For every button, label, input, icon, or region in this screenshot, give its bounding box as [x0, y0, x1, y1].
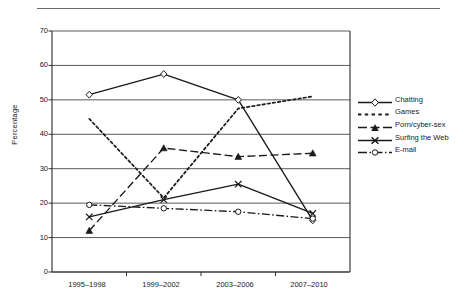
data-series-group	[86, 71, 316, 234]
series-line	[89, 96, 313, 198]
series-e-mail	[87, 202, 316, 221]
legend-key-surfing-the-web	[357, 132, 393, 143]
series-surfing-the-web	[86, 181, 316, 220]
series-line	[89, 148, 313, 231]
legend: Chatting Games Porn/cyber-sex	[357, 93, 465, 156]
legend-key-chatting	[357, 94, 393, 105]
data-point-marker	[161, 71, 167, 78]
data-point-marker	[161, 206, 166, 211]
data-point-marker	[86, 91, 92, 98]
gridlines	[52, 31, 350, 272]
legend-label: Chatting	[393, 95, 423, 104]
legend-item-games[interactable]: Games	[357, 106, 465, 119]
data-point-marker	[236, 209, 241, 214]
legend-item-e-mail[interactable]: E-mail	[357, 143, 465, 156]
axis-frame	[49, 31, 351, 276]
legend-label: Porn/cyber-sex	[393, 120, 445, 129]
legend-item-chatting[interactable]: Chatting	[357, 93, 465, 106]
legend-key-porn-cyber-sex	[357, 119, 393, 130]
data-point-marker	[87, 202, 92, 207]
legend-label: Surfing the Web	[393, 133, 449, 142]
legend-item-surfing-the-web[interactable]: Surfing the Web	[357, 131, 465, 144]
legend-label: E-mail	[393, 145, 416, 154]
legend-label: Games	[393, 107, 419, 116]
data-point-marker	[310, 216, 315, 221]
legend-key-e-mail	[357, 144, 393, 155]
series-games	[89, 96, 313, 198]
data-point-marker	[160, 145, 167, 151]
chart-figure: Percentage 70 60 50 40 30 20 10 0 1995–1…	[0, 0, 467, 298]
series-line	[89, 205, 313, 219]
series-porn-cyber-sex	[86, 145, 316, 234]
series-line	[89, 74, 313, 220]
series-line	[89, 184, 313, 217]
legend-key-games	[357, 106, 393, 117]
legend-item-porn-cyber-sex[interactable]: Porn/cyber-sex	[357, 118, 465, 131]
